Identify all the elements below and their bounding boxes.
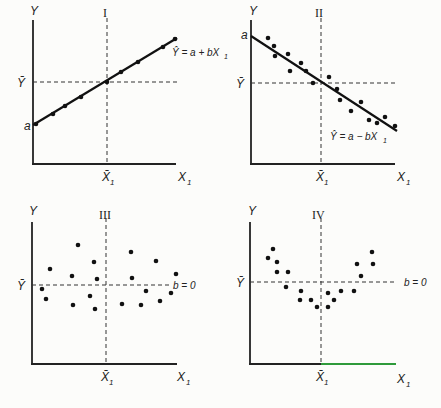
svg-text:1: 1 [187,178,191,187]
svg-text:1: 1 [406,380,410,389]
slope-label: b = 0 [404,277,427,288]
data-point [315,305,320,310]
data-point [40,287,45,292]
data-point [273,54,278,59]
x-axis-label: X 1 [177,170,191,187]
data-point [371,262,376,267]
data-point [44,297,49,302]
data-point [299,289,304,294]
data-point [326,291,331,296]
data-point [349,109,354,114]
svg-text:1: 1 [109,378,113,387]
svg-text:1: 1 [224,53,228,60]
data-point [272,44,277,49]
data-point [174,272,179,277]
data-point [120,302,125,307]
data-points [40,243,179,312]
data-point [299,61,304,66]
panel-numeral: II [315,6,323,20]
data-point [359,274,364,279]
svg-text:X: X [396,170,406,184]
data-point [271,247,276,252]
data-point [288,69,293,74]
mean-x-label: X̄ 1 [315,170,328,187]
data-point [311,81,316,86]
slope-label: b = 0 [173,280,196,291]
data-point [327,75,332,80]
panel-iii: Y III Ȳ b = 0 X̄ 1 X 1 [17,204,196,387]
data-point [335,87,340,92]
data-point [367,118,372,123]
regression-equation: Ŷ = a + bX 1 [172,46,228,60]
data-point [266,256,271,261]
y-axis-label: Y [30,4,39,18]
data-point [92,260,97,265]
regression-equation: Ŷ = a − bX 1 [330,130,387,144]
panel-iv: Y IV Ȳ b = 0 X̄ 1 X 1 [236,204,427,389]
data-point [154,259,159,264]
data-point [79,95,84,100]
data-point [286,270,291,275]
data-point [63,104,68,109]
svg-text:1: 1 [324,378,328,387]
data-point [338,98,343,103]
data-point [119,70,124,75]
data-point [275,270,280,275]
data-point [286,52,291,57]
svg-text:1: 1 [383,137,387,144]
data-point [169,291,174,296]
data-point [95,277,100,282]
panel-ii: Y II a Ȳ X̄ 1 X 1 Ŷ = a − bX 1 [236,4,410,187]
data-point [370,250,375,255]
x-axis-label: X 1 [396,170,410,187]
data-point [298,298,303,303]
panel-numeral: I [103,6,107,20]
data-point [359,100,364,105]
data-point [352,289,357,294]
y-axis-label: Y [249,4,258,18]
svg-text:Ŷ = a − bX: Ŷ = a − bX [330,130,378,142]
data-point [326,305,331,310]
mean-y-label: Ȳ [17,76,26,90]
data-point [355,262,360,267]
data-point [275,260,280,265]
data-point [130,276,135,281]
data-point [393,124,398,129]
svg-text:1: 1 [110,178,114,187]
data-point [76,243,81,248]
data-point [266,36,271,41]
data-points [266,36,398,129]
mean-y-label: Ȳ [17,279,26,293]
panel-numeral: IV [312,208,325,222]
data-point [304,69,309,74]
svg-text:X: X [396,372,406,386]
svg-text:1: 1 [324,178,328,187]
data-point [161,45,166,50]
data-point [34,122,39,127]
data-point [284,285,289,290]
mean-x-label: X̄ 1 [315,370,328,387]
mean-y-label: Ȳ [236,276,245,290]
x-axis-label: X 1 [396,372,410,389]
data-point [48,267,53,272]
data-point [309,298,314,303]
panel-numeral: III [99,208,111,222]
intercept-label: a [24,119,31,133]
y-axis-label: Y [29,204,38,218]
mean-x-label: X̄ 1 [101,170,114,187]
data-point [375,121,380,126]
y-axis-label: Y [248,204,257,218]
data-point [70,274,75,279]
svg-text:X: X [176,370,186,384]
svg-text:X: X [177,170,187,184]
intercept-label: a [241,28,248,42]
mean-x-label: X̄ 1 [100,370,113,387]
data-point [51,112,56,117]
svg-text:1: 1 [406,178,410,187]
x-axis-label: X 1 [176,370,190,387]
panel-i: Y I Ȳ a X̄ 1 X 1 Ŷ = a + bX 1 [17,4,228,187]
data-point [173,37,178,42]
data-point [88,294,93,299]
data-point [139,303,144,308]
data-point [158,299,163,304]
